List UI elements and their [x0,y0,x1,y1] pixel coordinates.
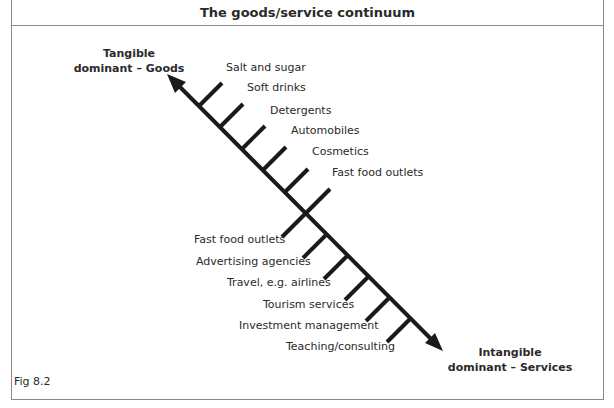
pole-label-services: Intangible dominant – Services [445,345,575,375]
goods-ticks [199,83,330,213]
figure-caption: Fig 8.2 [14,375,51,388]
goods-item-label: Detergents [270,104,331,117]
service-item-label: Advertising agencies [196,255,311,268]
goods-item-label: Cosmetics [312,145,369,158]
pole-label-goods: Tangible dominant – Goods [64,46,194,76]
service-item-label: Travel, e.g. airlines [227,276,331,289]
service-item-label: Fast food outlets [194,233,285,246]
service-item-label: Tourism services [263,298,354,311]
goods-item-label: Fast food outlets [332,166,423,179]
service-item-label: Investment management [239,319,379,332]
goods-item-label: Soft drinks [247,81,306,94]
goods-item-label: Automobiles [291,124,360,137]
service-item-label: Teaching/consulting [286,340,395,353]
goods-item-label: Salt and sugar [226,61,306,74]
